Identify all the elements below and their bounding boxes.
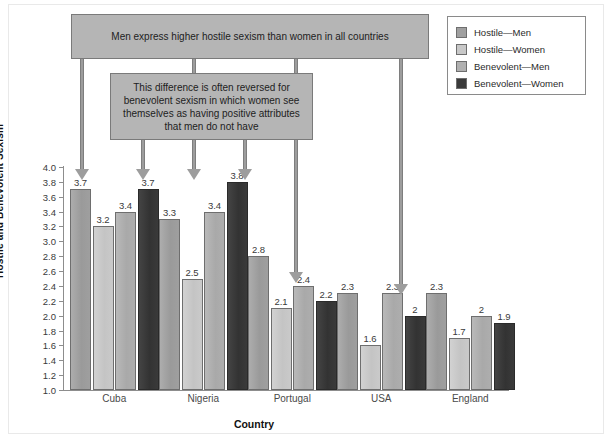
y-tick-label: 3.0	[43, 236, 56, 247]
y-tick-label: 4.0	[43, 162, 56, 173]
y-tick-label: 3.4	[43, 206, 56, 217]
legend-swatch	[456, 27, 467, 38]
bar-value-label: 2.8	[252, 244, 265, 255]
legend-swatch	[456, 44, 467, 55]
y-tick-label: 2.0	[43, 310, 56, 321]
legend-item-3[interactable]: Benevolent—Women	[456, 75, 577, 92]
bar[interactable]: 1.9	[494, 323, 515, 390]
arrow-head	[136, 169, 150, 180]
bar[interactable]: 2.3	[426, 293, 447, 390]
legend: Hostile—MenHostile—WomenBenevolent—MenBe…	[447, 16, 586, 95]
bar[interactable]: 3.8	[227, 182, 248, 390]
bar-group: 3.73.23.43.7Cuba	[70, 167, 159, 390]
bar[interactable]: 2	[471, 316, 492, 390]
bar-value-label: 2.5	[185, 267, 198, 278]
bar[interactable]: 2.5	[182, 279, 203, 391]
annotation-callout-benevolent: This difference is often reversed for be…	[110, 73, 313, 140]
bar-value-label: 2.3	[430, 281, 443, 292]
y-tick-label: 3.6	[43, 191, 56, 202]
bar-value-label: 1.6	[363, 333, 376, 344]
arrow-head	[289, 272, 303, 283]
bar[interactable]: 2.2	[316, 301, 337, 390]
arrow-head	[75, 169, 89, 180]
legend-swatch	[456, 61, 467, 72]
bar[interactable]: 3.7	[70, 189, 91, 390]
y-tick-label: 2.8	[43, 251, 56, 262]
bar[interactable]: 3.7	[138, 189, 159, 390]
bar-value-label: 2.1	[274, 296, 287, 307]
bar-group: 3.32.53.43.8Nigeria	[159, 167, 248, 390]
y-tick-label: 2.6	[43, 266, 56, 277]
y-tick-label: 2.2	[43, 295, 56, 306]
arrow-head	[394, 284, 408, 295]
bar[interactable]: 3.3	[159, 219, 180, 390]
bar[interactable]: 2.4	[293, 286, 314, 390]
y-tick-label: 1.4	[43, 355, 56, 366]
bar-group: 2.31.721.9England	[426, 167, 515, 390]
legend-label: Benevolent—Men	[474, 61, 550, 72]
plot-area: 3.73.23.43.7Cuba3.32.53.43.8Nigeria2.82.…	[64, 167, 508, 390]
bar[interactable]: 2.3	[382, 293, 403, 390]
legend-item-1[interactable]: Hostile—Women	[456, 41, 577, 58]
legend-label: Hostile—Women	[474, 44, 545, 55]
x-tick-label: Cuba	[70, 393, 159, 404]
bar-value-label: 3.4	[208, 200, 221, 211]
arrow-shaft	[141, 140, 145, 169]
x-axis-title: Country	[0, 418, 508, 430]
y-axis-tick-labels: 4.03.83.63.43.23.02.82.62.42.22.01.81.61…	[0, 0, 64, 448]
bar-value-label: 3.2	[96, 214, 109, 225]
bar-value-label: 1.7	[452, 326, 465, 337]
bar[interactable]: 2.3	[337, 293, 358, 390]
y-tick-label: 2.4	[43, 280, 56, 291]
x-tick-label: Nigeria	[159, 393, 248, 404]
bar[interactable]: 2.1	[271, 308, 292, 390]
x-tick-label: England	[426, 393, 515, 404]
bar[interactable]: 3.4	[204, 212, 225, 390]
bar-group: 2.31.62.32USA	[337, 167, 426, 390]
y-tick-label: 3.2	[43, 221, 56, 232]
y-tick-label: 1.8	[43, 325, 56, 336]
bar[interactable]: 1.7	[449, 338, 470, 390]
x-axis-line	[63, 390, 509, 391]
bar[interactable]: 2	[405, 316, 426, 390]
legend-label: Hostile—Men	[474, 27, 531, 38]
arrow-shaft	[243, 140, 247, 169]
arrow-head	[187, 169, 201, 180]
y-tick-label: 3.8	[43, 176, 56, 187]
x-tick-label: Portugal	[248, 393, 337, 404]
bar-value-label: 3.3	[163, 207, 176, 218]
arrow-shaft	[80, 59, 84, 169]
bar[interactable]: 1.6	[360, 345, 381, 390]
y-tick-label: 1.0	[43, 385, 56, 396]
bar[interactable]: 3.4	[115, 212, 136, 390]
bar-value-label: 2	[412, 304, 417, 315]
y-tick-label: 1.2	[43, 370, 56, 381]
bar[interactable]: 2.8	[248, 256, 269, 390]
legend-label: Benevolent—Women	[474, 78, 564, 89]
x-tick-label: USA	[337, 393, 426, 404]
chart-page: Hostile and Benevolent Sexism 4.03.83.63…	[0, 0, 614, 448]
y-tick-label: 1.6	[43, 340, 56, 351]
legend-item-0[interactable]: Hostile—Men	[456, 24, 577, 41]
bar-value-label: 2.2	[319, 289, 332, 300]
bar-value-label: 1.9	[497, 311, 510, 322]
legend-swatch	[456, 78, 467, 89]
bar-value-label: 3.4	[119, 200, 132, 211]
bar[interactable]: 3.2	[93, 226, 114, 390]
arrow-head	[238, 169, 252, 180]
arrow-shaft	[399, 59, 403, 284]
legend-item-2[interactable]: Benevolent—Men	[456, 58, 577, 75]
bar-value-label: 2.3	[341, 281, 354, 292]
annotation-callout-hostile: Men express higher hostile sexism than w…	[71, 14, 429, 59]
bar-value-label: 2	[479, 304, 484, 315]
